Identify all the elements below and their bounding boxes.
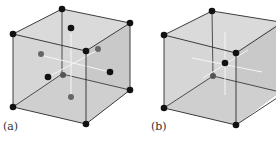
- figure-label-b: (b): [151, 120, 167, 133]
- fcc-cube: [10, 6, 134, 128]
- figure-label-a: (a): [3, 120, 18, 133]
- crystal-lattice-figure: [0, 0, 276, 141]
- bcc-cube: [161, 8, 276, 129]
- body-center-atom: [222, 60, 229, 67]
